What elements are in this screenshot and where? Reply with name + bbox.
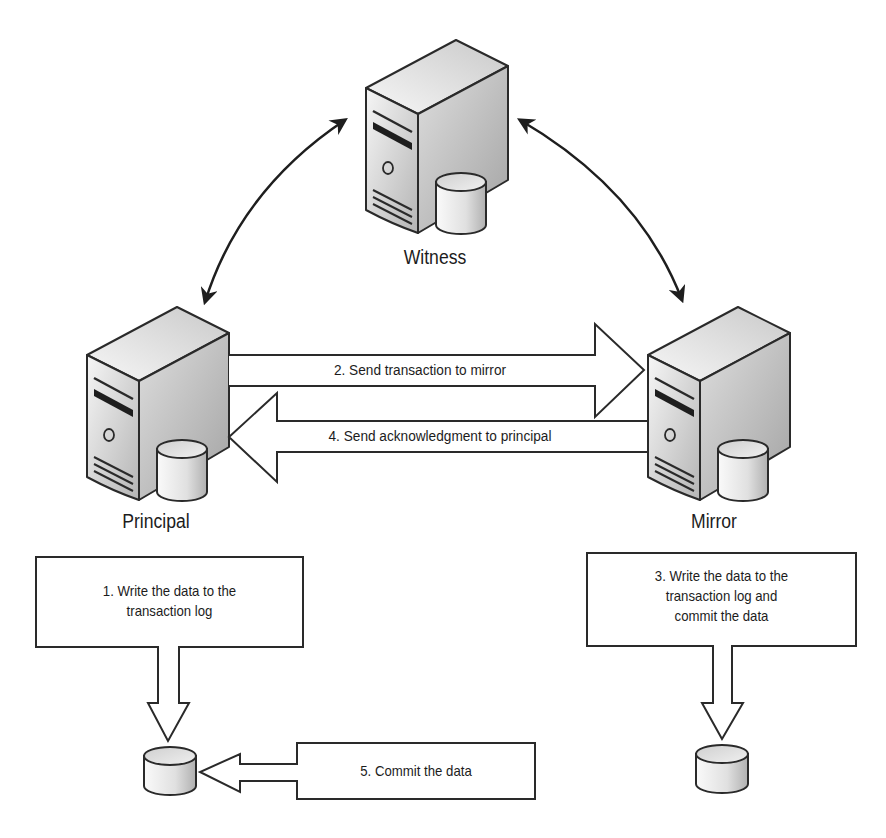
mirror-label: Mirror [670,510,758,533]
principal-database-icon [144,747,196,795]
step3-label: 3. Write the data to the transaction log… [603,566,840,626]
principal-label: Principal [112,510,200,533]
witness-mirror-link [520,120,682,300]
mirror-database-icon [696,745,748,793]
witness-principal-link [205,120,345,302]
principal-server-icon [87,307,229,501]
send-ack-label: 4. Send acknowledgment to principal [282,427,599,445]
witness-label: Witness [391,246,479,269]
witness-server-icon [366,40,508,234]
mirror-server-icon [648,307,790,501]
step1-label: 1. Write the data to the transaction log [52,581,287,621]
step5-label: 5. Commit the data [311,761,520,781]
send-transaction-label: 2. Send transaction to mirror [279,361,561,379]
diagram-canvas [0,0,886,838]
